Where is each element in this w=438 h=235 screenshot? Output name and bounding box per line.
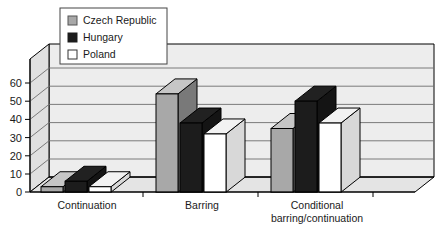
chart-left-wall xyxy=(30,44,49,192)
legend-swatch-hungary xyxy=(68,33,77,42)
x-axis xyxy=(30,192,415,197)
legend-swatch-czech-republic xyxy=(68,16,77,25)
bar-front-face xyxy=(156,94,178,192)
y-tick-label: 30 xyxy=(10,132,22,144)
y-tick-label: 0 xyxy=(16,186,22,198)
bar-front-face xyxy=(319,123,341,192)
y-tick-label: 40 xyxy=(10,113,22,125)
legend-swatch-poland xyxy=(68,50,77,59)
bar-poland-1 xyxy=(204,119,245,192)
bar-front-face xyxy=(180,123,202,192)
bar-front-face xyxy=(204,134,226,192)
legend-label-czech-republic: Czech Republic xyxy=(83,14,157,26)
category-label-continuation: Continuation xyxy=(58,199,117,211)
legend-label-hungary: Hungary xyxy=(83,31,123,43)
bar-front-face xyxy=(41,187,63,192)
x-axis-category-labels: Continuation Barring Conditional barring… xyxy=(58,199,364,224)
y-tick-label: 20 xyxy=(10,150,22,162)
bar-poland-2 xyxy=(319,108,360,192)
category-label-barring: Barring xyxy=(185,199,219,211)
y-tick-label: 50 xyxy=(10,95,22,107)
category-label-conditional-line1: Conditional xyxy=(291,199,344,211)
bar-front-face xyxy=(89,187,111,192)
y-tick-label: 10 xyxy=(10,168,22,180)
category-label-conditional-line2: barring/continuation xyxy=(271,212,363,224)
chart-canvas: 60 50 40 30 20 10 0 Continuation Barring… xyxy=(0,0,438,235)
legend-label-poland: Poland xyxy=(83,48,116,60)
bar-front-face xyxy=(65,181,87,192)
bar-front-face xyxy=(271,129,293,193)
bar-chart-figure: 60 50 40 30 20 10 0 Continuation Barring… xyxy=(0,0,438,235)
y-axis-tick-labels: 60 50 40 30 20 10 0 xyxy=(10,77,22,198)
bar-front-face xyxy=(295,101,317,192)
y-tick-label: 60 xyxy=(10,77,22,89)
chart-legend: Czech Republic Hungary Poland xyxy=(60,8,167,64)
y-axis xyxy=(25,59,30,192)
